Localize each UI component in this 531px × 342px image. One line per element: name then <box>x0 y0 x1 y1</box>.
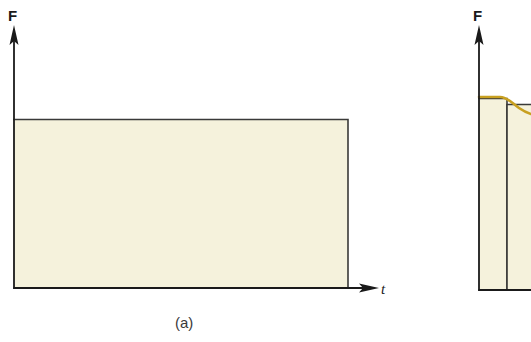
panel-b-y-axis-label: F <box>473 8 482 23</box>
panel-a-caption: (a) <box>175 315 193 330</box>
physics-force-time-figure: F t (a) F <box>0 0 531 342</box>
panel-a-force-region <box>14 119 348 288</box>
panel-a-x-axis-label: t <box>381 282 385 297</box>
panel-b-bar-1 <box>479 98 507 290</box>
panel-b-group <box>475 25 531 291</box>
panel-b-bar-2 <box>507 104 531 290</box>
panel-a-y-axis-label: F <box>8 8 17 23</box>
panel-a-group <box>10 25 380 293</box>
figure-canvas <box>0 0 531 342</box>
